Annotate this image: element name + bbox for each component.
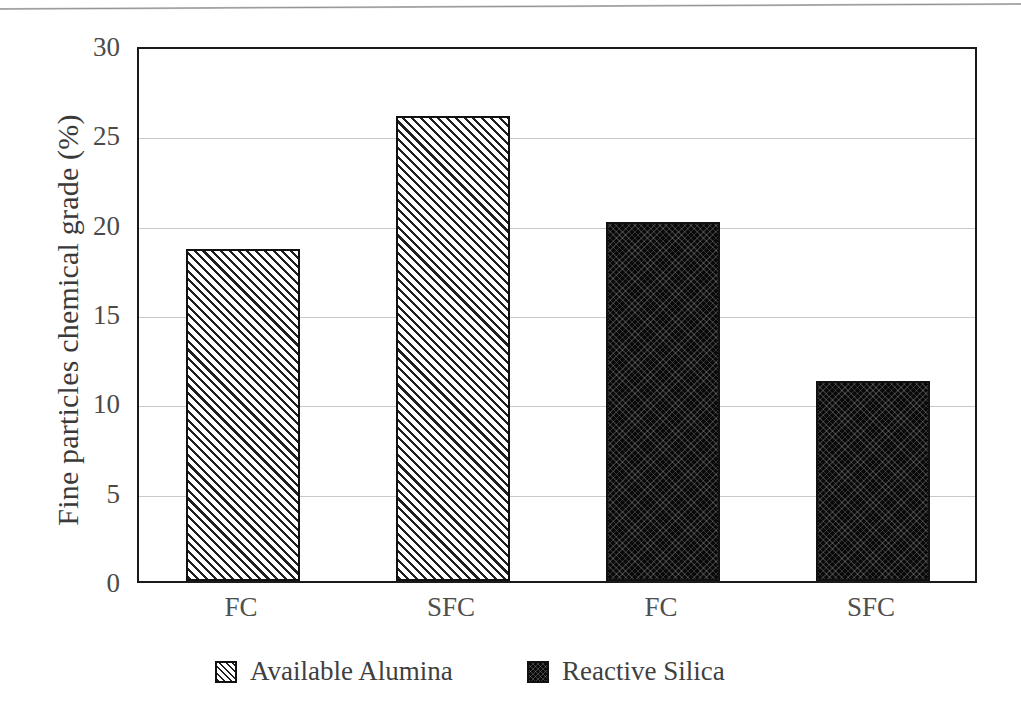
bar-chart-figure: Fine particles chemical grade (%) 30 25 … [0, 0, 1021, 726]
bar-group [139, 49, 975, 581]
plot-area [137, 47, 977, 583]
bar-fc-reactive-silica [606, 222, 720, 581]
y-tick-label: 0 [107, 568, 121, 599]
y-tick-label: 30 [93, 32, 120, 63]
y-tick-label: 10 [93, 389, 120, 420]
chart-legend: Available Alumina Reactive Silica [137, 652, 977, 692]
legend-item-reactive-silica: Reactive Silica [527, 656, 725, 687]
bar-sfc-available-alumina [396, 116, 510, 581]
legend-swatch-icon-available-alumina [215, 661, 237, 683]
bar-fc-available-alumina [186, 249, 300, 581]
page-top-rule [0, 3, 1021, 10]
x-tick-label: FC [224, 592, 257, 623]
x-tick-label: SFC [427, 592, 475, 623]
y-axis-tick-labels: 30 25 20 15 10 5 0 [58, 47, 128, 583]
x-tick-label: FC [644, 592, 677, 623]
y-tick-label: 20 [93, 210, 120, 241]
x-tick-label: SFC [847, 592, 895, 623]
y-tick-label: 15 [93, 300, 120, 331]
legend-swatch-icon-reactive-silica [527, 661, 549, 683]
legend-label: Available Alumina [250, 656, 453, 687]
legend-item-available-alumina: Available Alumina [215, 656, 453, 687]
legend-label: Reactive Silica [562, 656, 725, 687]
y-tick-label: 5 [107, 478, 121, 509]
bar-sfc-reactive-silica [816, 381, 930, 581]
y-tick-label: 25 [93, 121, 120, 152]
x-axis-tick-labels: FC SFC FC SFC [137, 592, 977, 638]
